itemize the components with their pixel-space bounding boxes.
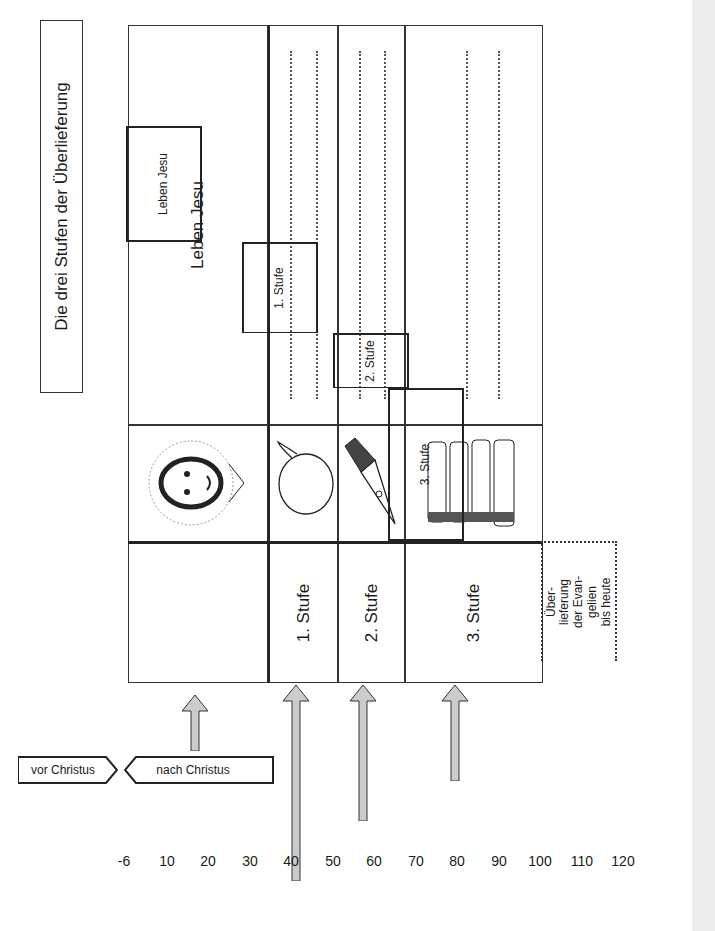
vor-christus-label: vor Christus <box>20 763 106 777</box>
row-label-stufe-3: 3. Stufe <box>405 543 543 683</box>
timeline-stufe-2: 2. Stufe <box>333 333 409 388</box>
arrow-up-icon <box>180 691 210 751</box>
row-answer-cell-1[interactable] <box>268 25 338 425</box>
row-label-stufe-2: 2. Stufe <box>338 543 405 683</box>
worksheet-title: Die drei Stufen der Überlieferung <box>40 20 83 393</box>
answer-line[interactable] <box>290 51 292 399</box>
arrow-up-icon <box>281 681 311 881</box>
jesus-portrait-icon <box>129 424 269 542</box>
column-divider <box>128 542 543 545</box>
nach-christus-label: nach Christus <box>140 763 246 777</box>
timeline-leben-jesu: Leben Jesu <box>126 126 202 242</box>
worksheet: Die drei Stufen der Überlieferung Leben … <box>0 0 715 931</box>
row-answer-cell-3[interactable] <box>405 25 543 425</box>
answer-line[interactable] <box>498 51 500 399</box>
speech-bubble-icon <box>270 424 340 542</box>
row-label-stufe-1: 1. Stufe <box>268 543 338 683</box>
answer-line[interactable] <box>466 51 468 399</box>
header-label-cell <box>128 543 268 683</box>
timeline-continuation: Über- lieferung der Evan- gelien bis heu… <box>541 541 617 661</box>
timeline-stufe-1: 1. Stufe <box>242 242 318 333</box>
answer-line[interactable] <box>316 51 318 399</box>
row-icon-cell-1 <box>268 425 338 543</box>
timeline-stufe-3: 3. Stufe <box>388 388 464 541</box>
header-icon-cell <box>128 425 268 543</box>
